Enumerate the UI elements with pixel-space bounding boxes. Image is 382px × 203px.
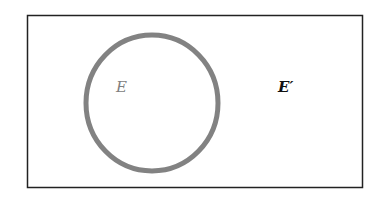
universe-rectangle — [28, 16, 363, 188]
event-circle — [86, 35, 218, 171]
event-label: E — [115, 78, 127, 96]
venn-diagram: E E′ — [0, 0, 382, 203]
complement-label: E′ — [277, 78, 293, 96]
